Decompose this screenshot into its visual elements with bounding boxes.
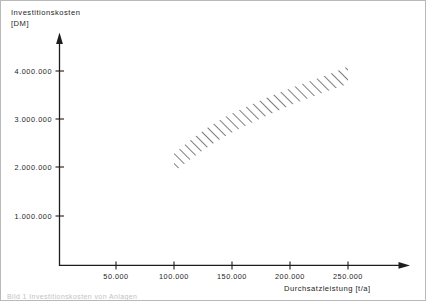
chart-plot-area: Investitionskosten [DM] 4.000.000 3.000.… <box>1 1 425 300</box>
x-tick-label-250000: 250.000 <box>318 272 378 281</box>
figure-canvas: Investitionskosten [DM] 4.000.000 3.000.… <box>0 0 426 301</box>
y-axis <box>56 33 63 267</box>
y-tick-label-1000000: 1.000.000 <box>1 212 52 221</box>
figure-caption-clipped: Bild 1 Investitionskosten von Anlagen <box>7 293 307 300</box>
y-axis-title-line2: [DM] <box>11 19 29 28</box>
x-tick-label-150000: 150.000 <box>202 272 262 281</box>
chart-vector-layer <box>1 1 426 301</box>
x-tick-label-100000: 100.000 <box>144 272 204 281</box>
data-band-hatched <box>151 41 381 201</box>
y-tick-label-2000000: 2.000.000 <box>1 163 52 172</box>
x-tick-label-200000: 200.000 <box>260 272 320 281</box>
y-axis-title-line1: Investitionskosten <box>11 8 80 17</box>
x-axis <box>59 262 410 269</box>
x-tick-label-50000: 50.000 <box>86 272 146 281</box>
y-tick-label-3000000: 3.000.000 <box>1 115 52 124</box>
y-tick-label-4000000: 4.000.000 <box>1 67 52 76</box>
